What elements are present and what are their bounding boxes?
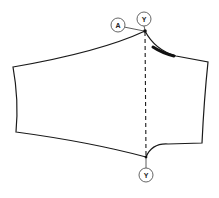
marker-y-top-label: Y (142, 16, 147, 23)
marker-y-top: Y (137, 12, 151, 26)
marker-y-bottom-label: Y (144, 172, 149, 179)
sleeve-pattern-diagram: A Y Y (0, 0, 219, 198)
marker-a-label: A (115, 22, 120, 29)
bottom-point-dot (145, 156, 148, 159)
center-fold-line (145, 32, 146, 156)
leader-y-top (144, 26, 145, 30)
pattern-outline (13, 31, 208, 157)
marker-a: A (111, 18, 125, 32)
highlighted-seam-segment (153, 47, 174, 56)
leader-a (124, 27, 144, 31)
marker-y-bottom: Y (139, 168, 153, 182)
